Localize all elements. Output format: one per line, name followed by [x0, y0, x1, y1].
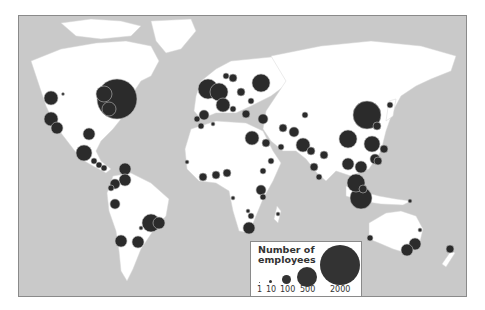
legend-title: Number of employees — [258, 245, 318, 265]
world-map[interactable]: Number of employees 1 10 100 500 2000 — [18, 15, 467, 297]
employee-marker — [248, 213, 254, 219]
employee-marker — [44, 91, 58, 105]
employee-marker — [387, 102, 393, 108]
employee-marker — [258, 114, 268, 124]
legend: Number of employees 1 10 100 500 2000 — [250, 241, 362, 297]
employee-marker — [262, 139, 270, 147]
map-canvas — [19, 16, 467, 297]
employee-marker — [401, 244, 413, 256]
employee-marker — [102, 102, 116, 116]
employee-marker — [279, 124, 287, 132]
employee-marker — [364, 136, 380, 152]
legend-label-100: 100 — [280, 285, 295, 294]
employee-marker — [260, 168, 266, 174]
employee-marker — [359, 185, 367, 193]
employee-marker — [446, 245, 454, 253]
employee-marker — [310, 163, 318, 171]
employee-marker — [355, 161, 367, 173]
employee-marker — [418, 228, 422, 232]
employee-marker — [108, 185, 114, 191]
employee-marker — [367, 235, 373, 241]
employee-marker — [260, 194, 266, 200]
legend-label-10: 10 — [266, 285, 276, 294]
legend-circle-1 — [259, 282, 260, 283]
employee-marker — [373, 122, 381, 130]
employee-marker — [342, 158, 354, 170]
employee-marker — [83, 128, 95, 140]
employee-marker — [185, 160, 189, 164]
employee-marker — [230, 106, 236, 112]
employee-marker — [278, 144, 284, 150]
employee-marker — [246, 209, 250, 213]
legend-circle-100 — [282, 275, 291, 284]
employee-marker — [223, 73, 229, 79]
legend-title-line2: employees — [258, 255, 318, 265]
employee-marker — [268, 158, 274, 164]
employee-marker — [316, 174, 322, 180]
legend-label-2000: 2000 — [330, 285, 350, 294]
employee-marker — [62, 93, 65, 96]
employee-marker — [211, 122, 215, 126]
employee-marker — [119, 163, 131, 175]
employee-marker — [153, 217, 165, 229]
legend-label-500: 500 — [300, 285, 315, 294]
employee-marker — [243, 222, 255, 234]
employee-marker — [216, 98, 230, 112]
employee-marker — [229, 74, 237, 82]
legend-label-1: 1 — [257, 285, 262, 294]
employee-marker — [110, 199, 120, 209]
employee-marker — [408, 199, 412, 203]
employee-marker — [380, 145, 388, 153]
employee-marker — [248, 98, 254, 104]
employee-marker — [96, 86, 112, 102]
legend-circle-2000 — [320, 245, 360, 285]
employee-marker — [252, 74, 270, 92]
employee-marker — [212, 171, 220, 179]
employee-marker — [339, 130, 357, 148]
employee-marker — [245, 131, 259, 145]
employee-marker — [307, 147, 315, 155]
employee-marker — [199, 173, 207, 181]
employee-marker — [289, 127, 299, 137]
employee-marker — [199, 110, 209, 120]
employee-marker — [256, 185, 266, 195]
employee-marker — [302, 112, 308, 118]
employee-marker — [320, 151, 328, 159]
employee-marker — [231, 196, 235, 200]
employee-marker — [198, 123, 204, 129]
legend-circle-500 — [297, 267, 317, 287]
employee-marker — [115, 235, 127, 247]
land-masses — [31, 19, 456, 281]
employee-marker — [237, 88, 245, 96]
employee-marker — [76, 145, 92, 161]
employee-marker — [91, 158, 97, 164]
employee-marker — [51, 122, 63, 134]
employee-marker — [194, 116, 200, 122]
employee-marker — [119, 174, 131, 186]
employee-marker — [139, 226, 143, 230]
legend-circle-10 — [269, 280, 272, 283]
employee-marker — [223, 169, 231, 177]
employee-marker — [276, 212, 280, 216]
employee-marker — [101, 165, 107, 171]
employee-marker — [132, 236, 144, 248]
employee-marker — [242, 110, 250, 118]
employee-marker — [374, 157, 382, 165]
